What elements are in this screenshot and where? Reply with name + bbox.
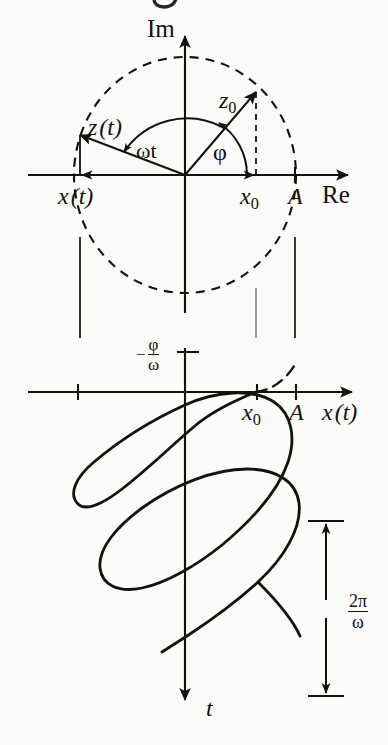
tick-label-x0-time: x0	[242, 400, 261, 428]
period-numerator: 2π	[348, 592, 368, 612]
period-marker	[308, 521, 344, 696]
vector-xt-label: x(t)	[58, 184, 93, 208]
xt-axis-label-argument: (t)	[335, 399, 358, 425]
vector-zt-label: z(t)	[88, 115, 122, 139]
sinusoid-tail	[258, 582, 300, 636]
t-axis-label: t	[206, 696, 213, 720]
vector-z0-subscript: 0	[228, 98, 236, 117]
phasor-oscillation-figure: Im Re z0 z(t) x(t) ωt φ x0 A − φ ω x0 A …	[0, 0, 388, 745]
angle-omega-t-label: ωt	[136, 140, 157, 162]
phase-offset-denominator: ω	[148, 355, 159, 373]
imaginary-axis-label: Im	[147, 16, 175, 41]
period-label: 2π ω	[348, 592, 368, 632]
tick-label-A-time: A	[289, 400, 304, 424]
tick-label-x0-phasor-subscript: 0	[251, 194, 259, 213]
top-cut-glyph	[154, 0, 176, 7]
vector-xt-base: x	[58, 183, 69, 209]
vector-z0-base: z	[219, 87, 228, 113]
vector-zt-argument: (t)	[99, 114, 122, 140]
figure-canvas	[0, 0, 388, 745]
phase-offset-numerator: φ	[148, 336, 160, 355]
vector-z0-label: z0	[219, 88, 237, 116]
phase-offset-label: − φ ω	[136, 336, 159, 374]
real-axis-label: Re	[322, 182, 350, 207]
phase-offset-fraction: φ ω	[148, 336, 160, 374]
period-denominator: ω	[352, 612, 364, 631]
xt-axis-label-base: x	[322, 399, 333, 425]
tick-label-x0-phasor-base: x	[240, 183, 251, 209]
phase-offset-minus: −	[136, 346, 146, 363]
sinusoid-dashed-extension	[256, 363, 296, 392]
sinusoid-curve	[74, 392, 300, 652]
vector-zt-base: z	[88, 114, 97, 140]
tick-label-x0-time-subscript: 0	[253, 410, 261, 429]
tick-label-x0-time-base: x	[242, 399, 253, 425]
angle-phi-label: φ	[213, 140, 227, 164]
tick-label-x0-phasor: x0	[240, 184, 259, 212]
xt-axis-label: x(t)	[322, 400, 357, 424]
tick-label-A-phasor: A	[288, 184, 303, 208]
vector-xt-argument: (t)	[71, 183, 94, 209]
